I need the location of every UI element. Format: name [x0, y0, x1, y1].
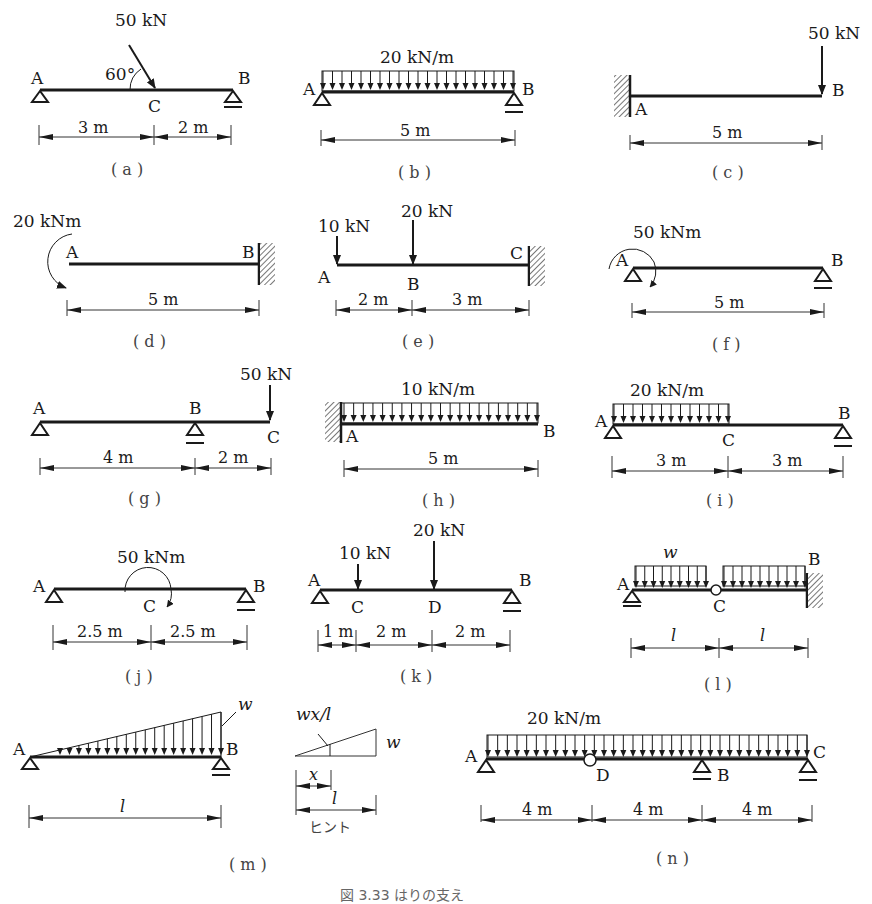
roller-support-icon [815, 269, 831, 281]
load-label: 50 kN [808, 23, 860, 43]
dimension-label: 2.5 m [77, 622, 123, 641]
node-label: A [317, 267, 331, 287]
pin-support-icon [46, 590, 62, 602]
dimension-label: 2 m [218, 448, 248, 467]
load-arrows [611, 404, 731, 423]
node-label: D [428, 597, 442, 617]
roller-support-icon [225, 91, 241, 102]
node-label: C [351, 597, 364, 617]
load-arrows [485, 735, 810, 757]
pin-support-icon [625, 269, 641, 281]
load-label: 50 kNm [633, 222, 701, 242]
panel-caption: ( j ) [125, 667, 153, 686]
panel-n: 20 kN/m A D B C 4 m 4 m 4 m ( n ) [464, 708, 826, 868]
load-label: 10 kN [318, 216, 370, 236]
node-label: A [32, 576, 46, 596]
dimension-label: 3 m [452, 290, 482, 309]
panel-k: 10 kN 20 kN A C D B 1 m 2 m 2 m ( k ) [307, 520, 532, 686]
panel-g: 50 kN A B C 4 m 2 m ( g ) [32, 364, 292, 508]
dimension-label: 5 m [400, 121, 430, 140]
load-label: 20 kN [413, 520, 465, 540]
load-label: 50 kN [240, 364, 292, 384]
load-label: 20 kN [401, 201, 453, 221]
dimension-label: l [760, 626, 765, 645]
panel-caption: ( k ) [400, 667, 432, 686]
fixed-wall-icon [325, 402, 340, 442]
pin-support-icon [478, 760, 494, 772]
panel-caption: ( n ) [656, 849, 689, 868]
load-label: 20 kN/m [380, 47, 454, 67]
roller-support-icon [187, 423, 203, 435]
load-arrows [57, 712, 224, 755]
node-label: C [813, 742, 826, 762]
dimension-label: 3 m [772, 451, 802, 470]
node-label: A [30, 68, 44, 88]
node-label: C [722, 430, 735, 450]
panel-j: 50 kNm A C B 2.5 m 2.5 m ( j ) [32, 547, 266, 686]
panel-d: 20 kNm A B 5 m ( d ) [13, 211, 275, 351]
pin-support-icon [314, 93, 330, 105]
angle-label: 60° [105, 64, 135, 84]
node-label: A [302, 79, 316, 99]
node-label: A [345, 426, 359, 446]
panel-caption: ( e ) [402, 332, 434, 351]
node-label: B [543, 421, 556, 441]
node-label: C [713, 596, 726, 616]
load-label: 20 kN/m [527, 708, 601, 728]
hint-triangle-icon [295, 729, 376, 756]
dimension-label: 4 m [103, 448, 133, 467]
node-label: A [615, 250, 629, 270]
panel-caption: ( b ) [398, 163, 431, 182]
panel-b: 20 kN/m A B 5 m ( b ) [302, 47, 535, 182]
dimension-label: 2.5 m [170, 622, 216, 641]
node-label: A [464, 746, 478, 766]
hinge-icon [584, 754, 596, 766]
node-label: C [143, 596, 156, 616]
load-label: 20 kN/m [630, 380, 704, 400]
hint-l-label: l [332, 789, 337, 808]
panel-f: 50 kNm A B 5 m ( f ) [609, 222, 844, 354]
hint-x-label: x [309, 765, 318, 784]
node-label: A [616, 574, 630, 594]
node-label: C [510, 243, 523, 263]
hint-w-label: w [386, 732, 401, 752]
dimension-label: 2 m [455, 622, 485, 641]
load-arrows [633, 566, 808, 588]
node-label: B [253, 576, 266, 596]
dimension-label: 4 m [522, 800, 552, 819]
fixed-wall-icon [530, 246, 545, 286]
node-label: A [634, 99, 648, 119]
dimension-label: 2 m [376, 622, 406, 641]
panel-caption: ( i ) [706, 491, 734, 510]
figure-caption: 図 3.33 はりの支え [340, 884, 464, 904]
dimension-label: 4 m [742, 800, 772, 819]
load-arrows [320, 71, 516, 90]
node-label: B [717, 765, 730, 785]
panel-a: 50 kN 60° A C B 3 m 2 m ( a ) [30, 10, 251, 179]
dimension-label: 1 m [323, 622, 353, 641]
dimension-label: l [120, 797, 125, 816]
node-label: A [32, 398, 46, 418]
load-arrows [341, 403, 540, 422]
panel-m: w A B l ( m ) wx/l w x l ヒント [12, 694, 401, 874]
fixed-wall-icon [260, 243, 275, 285]
panel-caption: ( m ) [229, 855, 267, 874]
node-label: A [307, 570, 321, 590]
load-label: 10 kN/m [401, 379, 475, 399]
pin-support-icon [22, 758, 38, 769]
dimension-label: 3 m [78, 118, 108, 137]
node-label: B [242, 242, 255, 262]
dimension-label: 5 m [428, 449, 458, 468]
dimension-label: 5 m [714, 293, 744, 312]
node-label: B [238, 68, 251, 88]
distributed-load-icon [723, 566, 805, 586]
load-label: 50 kNm [117, 547, 185, 567]
pin-support-icon [32, 91, 48, 102]
pin-support-icon [605, 426, 621, 438]
hint-formula: wx/l [296, 704, 331, 724]
node-label: C [148, 96, 161, 116]
node-label: B [522, 79, 535, 99]
roller-support-icon [238, 590, 254, 602]
fixed-wall-icon [614, 75, 629, 117]
panel-caption: ( d ) [133, 332, 166, 351]
